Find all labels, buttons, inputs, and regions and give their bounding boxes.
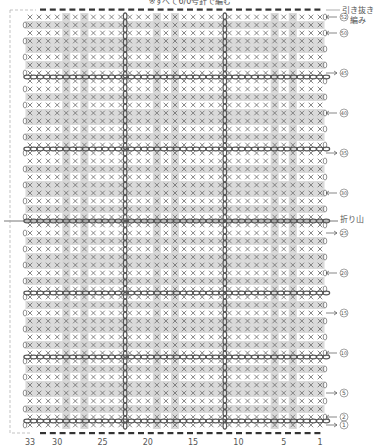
single-crochet-icon (146, 127, 151, 132)
single-crochet-icon (46, 175, 51, 180)
single-crochet-icon (236, 175, 241, 180)
single-crochet-icon (109, 103, 114, 108)
slip-stitch-dash-icon (109, 9, 115, 11)
single-crochet-icon (91, 247, 96, 252)
chain-stitch-icon (123, 143, 127, 150)
single-crochet-icon (263, 287, 268, 292)
single-crochet-icon (245, 71, 250, 76)
single-crochet-icon (146, 79, 151, 84)
single-crochet-icon (309, 79, 314, 84)
arrow-left-icon (326, 271, 337, 275)
single-crochet-icon (200, 351, 205, 356)
chain-stitch-icon (43, 75, 50, 79)
chain-stitch-icon (37, 419, 44, 423)
single-crochet-icon (300, 271, 305, 276)
single-crochet-icon (318, 87, 323, 92)
single-crochet-icon (309, 415, 314, 420)
single-crochet-icon (127, 271, 132, 276)
single-crochet-icon (281, 199, 286, 204)
chain-stitch-icon (141, 75, 148, 79)
chain-stitch-icon (123, 221, 127, 228)
single-crochet-icon (218, 311, 223, 316)
chain-stitch-icon (160, 419, 167, 423)
single-crochet-icon (281, 143, 286, 148)
chain-stitch-icon (193, 147, 200, 151)
single-crochet-icon (164, 423, 169, 428)
single-crochet-icon (37, 159, 42, 164)
chain-stitch-icon (160, 147, 167, 151)
single-crochet-icon (245, 151, 250, 156)
chain-stitch-icon (89, 291, 96, 295)
single-crochet-icon (91, 375, 96, 380)
single-crochet-icon (109, 311, 114, 316)
slip-stitch-dash-icon (148, 9, 154, 11)
single-crochet-icon (236, 215, 241, 220)
chain-stitch-icon (180, 355, 187, 359)
single-crochet-icon (73, 295, 78, 300)
single-crochet-icon (245, 247, 250, 252)
chain-stitch-icon (206, 147, 213, 151)
single-crochet-icon (109, 271, 114, 276)
chain-stitch-icon (199, 147, 206, 151)
single-crochet-icon (73, 79, 78, 84)
single-crochet-icon (236, 79, 241, 84)
single-crochet-icon (55, 79, 60, 84)
single-crochet-icon (227, 103, 232, 108)
single-crochet-icon (37, 87, 42, 92)
single-crochet-icon (118, 335, 123, 340)
chain-stitch-icon (316, 355, 323, 359)
single-crochet-icon (318, 231, 323, 236)
single-crochet-icon (118, 351, 123, 356)
single-crochet-icon (118, 71, 123, 76)
chain-stitch-icon (115, 291, 122, 295)
single-crochet-icon (227, 79, 232, 84)
single-crochet-icon (236, 247, 241, 252)
single-crochet-icon (146, 199, 151, 204)
single-crochet-icon (263, 335, 268, 340)
single-crochet-icon (254, 375, 259, 380)
slip-stitch-dash-icon (118, 9, 124, 11)
chain-stitch-icon (24, 75, 31, 79)
single-crochet-icon (263, 151, 268, 156)
single-crochet-icon (254, 231, 259, 236)
chain-stitch-icon (199, 419, 206, 423)
chain-stitch-icon (206, 355, 213, 359)
chain-stitch-icon (238, 147, 245, 151)
single-crochet-icon (191, 31, 196, 36)
column-labels: 33302520151051 (25, 438, 323, 447)
single-crochet-icon (182, 103, 187, 108)
chain-stitch-icon (238, 419, 245, 423)
single-crochet-icon (191, 55, 196, 60)
single-crochet-icon (209, 103, 214, 108)
single-crochet-icon (136, 127, 141, 132)
single-crochet-icon (73, 375, 78, 380)
single-crochet-icon (209, 375, 214, 380)
single-crochet-icon (191, 71, 196, 76)
chain-stitch-icon (303, 355, 310, 359)
slip-stitch-dash-icon (265, 432, 271, 434)
single-crochet-icon (318, 103, 323, 108)
single-crochet-icon (109, 127, 114, 132)
single-crochet-icon (182, 31, 187, 36)
single-crochet-icon (309, 159, 314, 164)
single-crochet-icon (200, 127, 205, 132)
single-crochet-icon (100, 399, 105, 404)
chain-stitch-icon (115, 355, 122, 359)
single-crochet-icon (100, 271, 105, 276)
chain-stitch-icon (30, 419, 37, 423)
single-crochet-icon (191, 423, 196, 428)
single-crochet-icon (100, 31, 105, 36)
single-crochet-icon (146, 247, 151, 252)
single-crochet-icon (109, 247, 114, 252)
single-crochet-icon (245, 215, 250, 220)
single-crochet-icon (118, 215, 123, 220)
single-crochet-icon (236, 15, 241, 20)
single-crochet-icon (91, 199, 96, 204)
chain-stitch-icon (223, 227, 227, 234)
single-crochet-icon (200, 15, 205, 20)
single-crochet-icon (245, 351, 250, 356)
chain-stitch-icon (251, 291, 258, 295)
chain-stitch-icon (323, 355, 330, 359)
single-crochet-icon (146, 287, 151, 292)
single-crochet-icon (300, 87, 305, 92)
